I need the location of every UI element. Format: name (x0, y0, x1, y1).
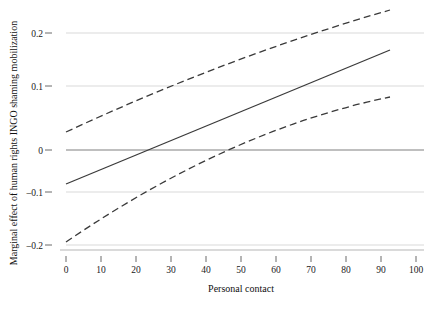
x-tick-label-100: 100 (409, 265, 424, 275)
y-tick-label-neg0.2: –0.2 (25, 241, 43, 251)
y-tick-label-0.1: 0.1 (31, 82, 43, 92)
x-tick-label-0: 0 (64, 265, 69, 275)
x-tick-label-20: 20 (131, 265, 141, 275)
x-tick-label-40: 40 (201, 265, 211, 275)
y-tick-label-0.2: 0.2 (31, 29, 43, 39)
x-axis-title: Personal contact (208, 283, 274, 294)
y-axis-title: Marginal effect of human rights INGO sha… (8, 21, 19, 265)
marginal-effect-chart: 0.2 0.1 0 –0.1 –0.2 0 10 20 30 40 (0, 0, 434, 311)
x-tick-label-60: 60 (271, 265, 281, 275)
y-tick-label-neg0.1: –0.1 (25, 188, 43, 198)
x-tick-label-80: 80 (341, 265, 351, 275)
x-tick-label-30: 30 (166, 265, 176, 275)
x-tick-label-50: 50 (236, 265, 246, 275)
x-tick-label-70: 70 (306, 265, 316, 275)
x-tick-label-10: 10 (96, 265, 106, 275)
chart-canvas: 0.2 0.1 0 –0.1 –0.2 0 10 20 30 40 (0, 0, 434, 311)
x-tick-label-90: 90 (376, 265, 386, 275)
y-tick-label-0: 0 (38, 146, 43, 156)
